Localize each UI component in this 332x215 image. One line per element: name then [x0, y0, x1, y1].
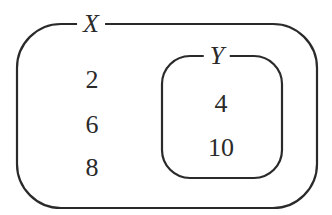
set-x-element: 6 — [86, 112, 99, 138]
set-y-element: 10 — [208, 135, 234, 161]
set-x-element: 8 — [86, 155, 99, 181]
set-y-element: 4 — [215, 91, 228, 117]
set-x-label: X — [77, 11, 105, 37]
set-y-label: Y — [204, 43, 230, 69]
set-x-element: 2 — [86, 67, 99, 93]
set-x-boundary — [17, 24, 317, 208]
venn-diagram-shapes — [0, 0, 332, 215]
